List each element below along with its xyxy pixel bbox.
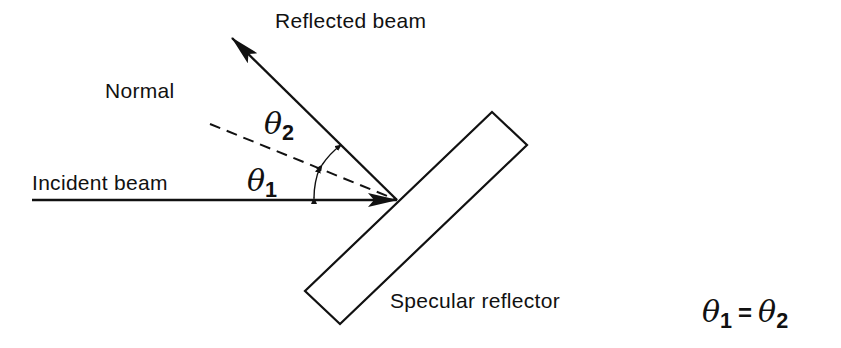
normal-label: Normal (105, 80, 174, 101)
theta1-arc (314, 167, 320, 198)
equation-operator: = (738, 299, 752, 326)
theta2-label: θ2 (264, 109, 294, 139)
theta1-label: θ1 (247, 166, 277, 196)
theta1-subscript: 1 (265, 177, 277, 202)
incident-beam-label: Incident beam (32, 172, 168, 193)
theta2-symbol: θ (264, 106, 282, 141)
angle-equality-equation: θ1=θ2 (702, 297, 788, 327)
equation-lhs-symbol: θ (702, 294, 720, 329)
normal-line (210, 124, 397, 200)
reflected-beam-label: Reflected beam (275, 10, 426, 31)
theta1-symbol: θ (247, 163, 265, 198)
equation-lhs-subscript: 1 (720, 308, 732, 333)
theta2-arc (322, 145, 341, 165)
equation-rhs-subscript: 2 (776, 308, 788, 333)
equation-rhs-symbol: θ (758, 294, 776, 329)
reflection-diagram: Reflected beam Normal Incident beam Spec… (0, 0, 841, 348)
theta2-subscript: 2 (282, 120, 294, 145)
specular-reflector-label: Specular reflector (390, 290, 560, 311)
